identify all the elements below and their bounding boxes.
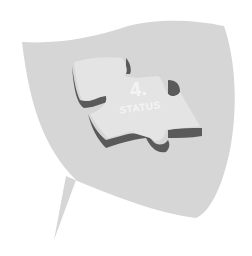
status-badge: 4. STATUS [0,0,252,256]
shield-speech-bubble-icon [0,0,252,256]
